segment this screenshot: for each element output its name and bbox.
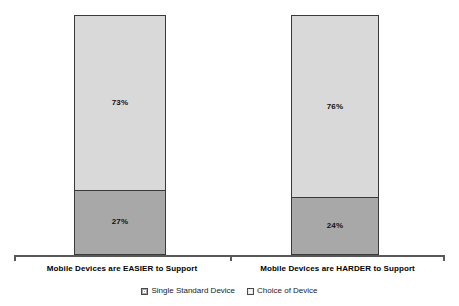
legend-swatch-icon <box>247 288 254 295</box>
chart-legend: Single Standard Device Choice of Device <box>0 284 459 298</box>
bar-segment-label: 76% <box>327 103 344 111</box>
x-axis-label-easier: Mobile Devices are EASIER to Support <box>14 263 230 275</box>
bar-column-easier[interactable]: 73% 27% <box>74 15 166 256</box>
bar-segment-single-standard-device-harder[interactable]: 24% <box>291 197 379 255</box>
legend-label: Choice of Device <box>257 286 317 296</box>
x-axis-tick-right <box>443 255 445 261</box>
bar-segment-single-standard-device-easier[interactable]: 27% <box>74 190 166 255</box>
bar-segment-label: 27% <box>112 218 129 226</box>
legend-item-choice-of-device[interactable]: Choice of Device <box>247 286 317 296</box>
plot-area: 73% 27% 76% 24% <box>0 0 459 258</box>
bar-segment-choice-of-device-harder[interactable]: 76% <box>291 15 379 198</box>
bar-column-harder[interactable]: 76% 24% <box>291 15 379 256</box>
legend-swatch-icon <box>141 288 148 295</box>
x-axis-tick-left <box>14 255 16 261</box>
bar-segment-label: 24% <box>327 222 344 230</box>
legend-label: Single Standard Device <box>151 286 235 296</box>
x-axis-tick-middle <box>230 255 232 261</box>
bar-segment-choice-of-device-easier[interactable]: 73% <box>74 15 166 191</box>
x-axis-label-harder: Mobile Devices are HARDER to Support <box>230 263 445 275</box>
bar-segment-label: 73% <box>112 99 129 107</box>
legend-item-single-standard-device[interactable]: Single Standard Device <box>141 286 235 296</box>
x-axis-category-labels: Mobile Devices are EASIER to Support Mob… <box>0 263 459 279</box>
stacked-bar-chart: 73% 27% 76% 24% Mobile Devices are EASIE… <box>0 0 459 306</box>
